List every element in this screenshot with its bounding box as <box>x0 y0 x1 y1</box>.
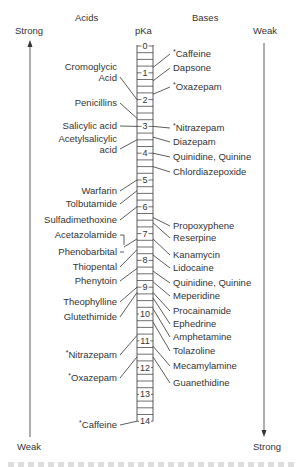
acid-label: Acetylsalicylicacid <box>58 133 117 155</box>
caption-cutoff <box>8 462 294 467</box>
arrow-up-icon <box>28 40 33 47</box>
base-leader <box>153 309 170 337</box>
base-label: Meperidine <box>173 290 220 301</box>
pka-tick-9: 9 <box>141 282 148 292</box>
acid-label: *Nitrazepam <box>66 349 117 360</box>
base-name: Guanethidine <box>173 377 230 388</box>
acid-leader <box>120 207 137 220</box>
acid-leader <box>120 103 137 118</box>
asterisk-marker: * <box>173 81 176 88</box>
acid-leader <box>120 191 137 204</box>
base-name: Diazepam <box>173 136 216 147</box>
base-name: Amphetamine <box>173 331 232 342</box>
base-name: Ephedrine <box>173 318 216 329</box>
base-label: Amphetamine <box>173 331 232 342</box>
pka-tick-2: 2 <box>141 95 148 105</box>
base-label: Quinidine, Quinine <box>173 277 251 288</box>
acid-name: Glutethimide <box>64 311 117 322</box>
base-leader <box>153 87 170 94</box>
base-name: Reserpine <box>173 232 216 243</box>
acid-label: Phenytoin <box>75 275 117 286</box>
acid-name-line2: acid <box>100 144 117 155</box>
base-label: Kanamycin <box>173 249 220 260</box>
base-leader <box>153 167 170 172</box>
base-name: Quinidine, Quinine <box>173 277 251 288</box>
acid-name: Sulfadimethoxine <box>44 214 117 225</box>
acid-name: Acetylsalicylic <box>58 133 117 144</box>
base-leader <box>153 126 170 128</box>
base-label: Ephedrine <box>173 318 216 329</box>
acid-leader <box>120 180 137 191</box>
acid-name: Cromoglycic <box>65 61 117 72</box>
base-name: Lidocaine <box>173 262 214 273</box>
base-label: Procainamide <box>173 305 231 316</box>
acid-leader <box>120 293 137 317</box>
base-name: Caffeine <box>176 48 211 59</box>
acid-label: Salicylic acid <box>63 120 117 131</box>
base-label: Reserpine <box>173 232 216 243</box>
base-leader <box>153 239 170 255</box>
base-name: Dapsone <box>173 62 211 73</box>
acid-label: *Caffeine <box>79 419 117 430</box>
arrow-down-icon <box>262 430 267 437</box>
acid-leader <box>120 287 137 302</box>
base-label: Mecamylamine <box>173 360 237 371</box>
acid-label: Glutethimide <box>64 311 117 322</box>
base-label: *Oxazepam <box>173 81 222 92</box>
pka-tick-5: 5 <box>141 175 148 185</box>
acid-name: Acetazolamide <box>55 229 117 240</box>
base-name: Kanamycin <box>173 249 220 260</box>
base-name: Mecamylamine <box>173 360 237 371</box>
base-label: *Caffeine <box>173 48 211 59</box>
base-leader <box>153 54 170 67</box>
acid-leader <box>120 357 137 378</box>
pka-tick-14: 14 <box>139 416 151 426</box>
base-leader <box>153 357 170 383</box>
base-label: Propoxyphene <box>173 220 234 231</box>
acid-name: Salicylic acid <box>63 120 117 131</box>
acid-name: Nitrazepam <box>68 349 117 360</box>
acid-label: Theophylline <box>63 296 117 307</box>
acid-label: *Oxazepam <box>68 372 117 383</box>
base-leader <box>153 271 170 283</box>
base-name: Quinidine, Quinine <box>173 151 251 162</box>
acid-leader <box>124 239 137 247</box>
pka-tick-12: 12 <box>139 363 151 373</box>
base-leader <box>153 255 170 268</box>
pka-tick-11: 11 <box>139 336 150 346</box>
base-label: Diazepam <box>173 136 216 147</box>
base-name: Procainamide <box>173 305 231 316</box>
pka-tick-7: 7 <box>141 229 148 239</box>
acid-name: Thiopental <box>73 261 117 272</box>
base-name: Oxazepam <box>176 81 222 92</box>
acid-name: Caffeine <box>82 419 117 430</box>
base-label: Chlordiazepoxide <box>173 166 246 177</box>
pka-tick-10: 10 <box>139 309 151 319</box>
pka-tick-1: 1 <box>141 68 148 78</box>
acid-name: Theophylline <box>63 296 117 307</box>
asterisk-marker: * <box>79 419 82 426</box>
acid-label: Sulfadimethoxine <box>44 214 117 225</box>
acid-name: Phenobarbital <box>58 246 117 257</box>
base-leader <box>153 322 170 351</box>
base-name: Chlordiazepoxide <box>173 166 246 177</box>
base-name: Tolazoline <box>173 345 215 356</box>
pka-tick-8: 8 <box>141 255 148 265</box>
base-label: Dapsone <box>173 62 211 73</box>
acid-name: Warfarin <box>81 185 117 196</box>
base-leader <box>153 68 170 81</box>
acid-name-line2: Acid <box>99 72 117 83</box>
acid-name: Oxazepam <box>71 372 117 383</box>
base-leader <box>153 282 170 296</box>
pka-tick-13: 13 <box>139 389 151 399</box>
acid-label: Warfarin <box>81 185 117 196</box>
acid-leader <box>120 335 137 355</box>
base-name: Propoxyphene <box>173 220 234 231</box>
acid-label: Penicillins <box>75 97 117 108</box>
acid-label: Thiopental <box>73 261 117 272</box>
acid-name: Tolbutamide <box>66 198 117 209</box>
pka-tick-4: 4 <box>141 148 148 158</box>
pka-tick-0: 0 <box>141 41 148 51</box>
base-leader <box>153 137 170 142</box>
asterisk-marker: * <box>173 48 176 55</box>
